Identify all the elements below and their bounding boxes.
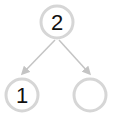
diagram-svg: 2 1: [0, 0, 117, 122]
node-whole: 2: [41, 6, 73, 38]
node-part-left: 1: [6, 79, 38, 111]
arrow-to-left-part: [24, 40, 55, 72]
node-part-left-label: 1: [16, 83, 28, 108]
number-bond-diagram: 2 1: [0, 0, 117, 122]
node-part-right[interactable]: [74, 79, 106, 111]
arrow-to-right-part: [59, 40, 88, 72]
node-whole-label: 2: [51, 10, 63, 35]
